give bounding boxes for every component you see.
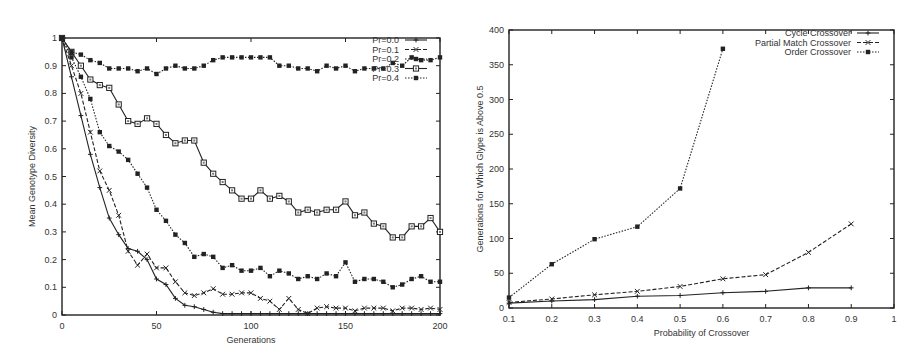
y-tick-label: 0 [499, 303, 504, 313]
x-tick-label: 1 [891, 314, 896, 324]
x-tick-label: 0.5 [674, 314, 687, 324]
series-order-crossover [507, 47, 725, 300]
data-point-marker [635, 224, 639, 228]
y-tick-label: 150 [489, 199, 504, 209]
data-point-marker [635, 294, 640, 299]
y-tick-label: 300 [489, 95, 504, 105]
data-point-marker [849, 285, 854, 290]
y-tick-label: 200 [489, 164, 504, 174]
data-point-marker [592, 237, 596, 241]
data-point-marker [678, 186, 682, 190]
x-tick-label: 0.3 [588, 314, 601, 324]
plot-frame [509, 30, 894, 308]
right-chart: 0.10.20.30.40.50.60.70.80.91050100150200… [0, 0, 912, 352]
x-axis: 0.10.20.30.40.50.60.70.80.91 [503, 30, 897, 324]
data-point-marker [806, 250, 811, 255]
legend: Cycle CrossoverPartial Match CrossoverOr… [755, 28, 879, 57]
x-tick-label: 0.8 [802, 314, 815, 324]
legend-swatch-marker [866, 31, 871, 36]
x-tick-label: 0.2 [546, 314, 559, 324]
data-point-marker [721, 47, 725, 51]
legend-label: Cycle Crossover [785, 28, 851, 38]
legend-item: Partial Match Crossover [755, 38, 879, 48]
data-point-marker [550, 262, 554, 266]
y-axis-label: Generations for Which Glype is Above 0.5 [475, 85, 485, 252]
series-cycle-crossover [507, 285, 854, 305]
x-tick-label: 0.6 [717, 314, 730, 324]
x-tick-label: 0.1 [503, 314, 516, 324]
y-tick-label: 350 [489, 60, 504, 70]
data-point-marker [849, 222, 854, 227]
y-axis: 050100150200250300350400 [489, 25, 894, 313]
x-tick-label: 0.4 [631, 314, 644, 324]
y-tick-label: 50 [494, 268, 504, 278]
legend-item: Order Crossover [784, 47, 879, 57]
y-tick-label: 100 [489, 234, 504, 244]
data-point-marker [678, 293, 683, 298]
y-tick-label: 400 [489, 25, 504, 35]
x-tick-label: 0.7 [759, 314, 772, 324]
data-point-marker [763, 272, 768, 277]
x-axis-label: Probability of Crossover [654, 328, 750, 338]
data-point-marker [720, 290, 725, 295]
legend-label: Order Crossover [784, 47, 851, 57]
series-partial-match-crossover [507, 222, 854, 305]
x-tick-label: 0.9 [845, 314, 858, 324]
legend-swatch-marker [866, 50, 870, 54]
data-point-marker [507, 295, 511, 299]
data-point-marker [763, 289, 768, 294]
legend-label: Partial Match Crossover [755, 38, 851, 48]
y-tick-label: 250 [489, 129, 504, 139]
data-point-marker [592, 297, 597, 302]
data-point-marker [806, 285, 811, 290]
